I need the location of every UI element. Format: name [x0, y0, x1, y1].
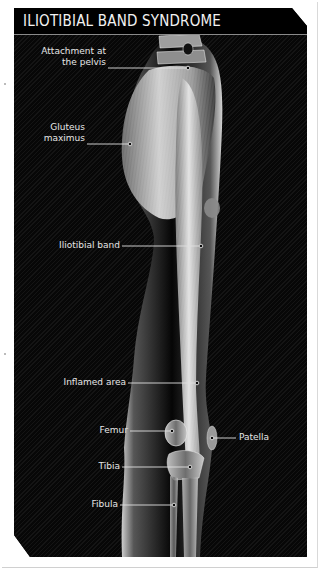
- label-attachment-pelvis: Attachment at the pelvis: [34, 46, 106, 68]
- label-attachment-line2: the pelvis: [34, 57, 106, 68]
- label-gluteus-line1: Gluteus: [24, 122, 85, 133]
- label-gluteus-line2: maximus: [24, 133, 85, 144]
- label-femur: Femur: [74, 425, 128, 436]
- margin-mark: [4, 83, 6, 85]
- label-attachment-line1: Attachment at: [34, 46, 106, 57]
- label-inflamed-area: Inflamed area: [34, 377, 126, 388]
- margin-mark: [4, 353, 6, 355]
- label-fibula: Fibula: [64, 499, 118, 510]
- label-patella: Patella: [239, 432, 269, 443]
- label-tibia: Tibia: [64, 461, 120, 472]
- infographic-panel: ILIOTIBIAL BAND SYNDROME Attachment at t…: [14, 8, 307, 557]
- title-bar: ILIOTIBIAL BAND SYNDROME: [14, 8, 307, 35]
- diagram-title: ILIOTIBIAL BAND SYNDROME: [23, 12, 221, 30]
- label-iliotibial-band: Iliotibial band: [34, 240, 120, 251]
- leg-anatomy-illustration: [14, 8, 307, 557]
- label-gluteus-maximus: Gluteus maximus: [24, 122, 85, 144]
